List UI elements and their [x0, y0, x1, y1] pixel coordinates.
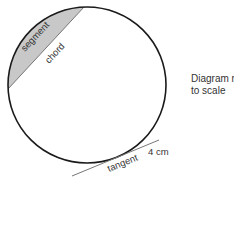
- scale-note-line1: Diagram not: [191, 73, 234, 85]
- length-label: 4 cm: [148, 146, 169, 157]
- scale-note: Diagram not to scale: [191, 73, 234, 97]
- scale-note-line2: to scale: [191, 85, 234, 97]
